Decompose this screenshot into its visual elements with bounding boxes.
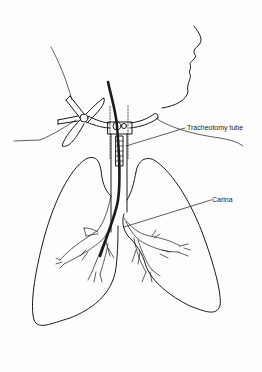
face-profile (162, 26, 201, 108)
suction-catheter (100, 82, 120, 256)
label-tracheotomy-tube: Tracheotomy tube (187, 124, 243, 131)
right-lung-outline (123, 159, 221, 313)
tracheotomy-tube-leader (126, 128, 185, 146)
tie-bow (58, 96, 104, 146)
label-carina: Carina (212, 196, 233, 203)
neck-outline (51, 47, 72, 100)
diagram-canvas: Tracheotomy tube Carina (0, 0, 262, 372)
neck-strap-right (156, 118, 243, 146)
right-bronchial-tree (124, 218, 190, 282)
tracheotomy-illustration (0, 0, 262, 372)
tube-flange (86, 106, 158, 160)
